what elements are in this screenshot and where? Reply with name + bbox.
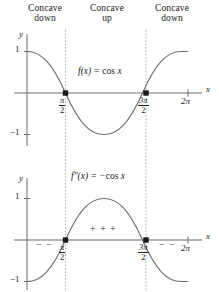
bottom-x-axis-label: x bbox=[206, 232, 210, 241]
bottom-function-var: x bbox=[118, 171, 125, 181]
top-function-body: cos bbox=[102, 66, 115, 76]
top-xtick-label-2pi: 2π bbox=[181, 97, 190, 106]
fraction-pi-over-2: π 2 bbox=[59, 243, 65, 262]
concavity-label-right: Concave down bbox=[141, 4, 203, 24]
sign-label-right: − − bbox=[159, 241, 176, 251]
concavity-label-left: Concave down bbox=[14, 4, 76, 24]
concavity-label-right-line1: Concave bbox=[155, 3, 189, 13]
fraction-pi-over-2: π 2 bbox=[59, 96, 65, 115]
concavity-figure: Concave down Concave up Concave down y x… bbox=[0, 0, 219, 292]
sign-label-left: − − bbox=[36, 241, 53, 251]
concavity-label-right-line2: down bbox=[141, 14, 203, 24]
bottom-function-arg: (x) = − bbox=[78, 171, 106, 181]
top-ytick-label-1: 1 bbox=[15, 45, 20, 54]
fraction-denominator: 2 bbox=[59, 106, 65, 115]
top-xtick-label-pi-over-2: π 2 bbox=[59, 96, 65, 117]
bottom-xtick-label-2pi: 2π bbox=[181, 244, 190, 253]
fraction-denominator: 2 bbox=[138, 253, 149, 262]
top-function-label: f(x) = cos x bbox=[78, 67, 122, 77]
concavity-label-left-line2: down bbox=[14, 14, 76, 24]
bottom-function-label: f″(x) = −cos x bbox=[71, 172, 125, 182]
fraction-3pi-over-2: 3π 2 bbox=[138, 96, 149, 115]
top-x-axis-label: x bbox=[206, 85, 210, 94]
top-y-axis-label: y bbox=[19, 30, 23, 39]
fraction-3pi-over-2: 3π 2 bbox=[138, 243, 149, 262]
bottom-xtick-label-pi-over-2: π 2 bbox=[59, 243, 65, 264]
concavity-label-middle-line2: up bbox=[76, 14, 138, 24]
top-xtick-label-3pi-over-2: 3π 2 bbox=[138, 96, 149, 117]
bottom-y-axis-label: y bbox=[19, 174, 23, 183]
top-ytick-label-neg1: −1 bbox=[10, 128, 20, 137]
bottom-ytick-label-neg1: −1 bbox=[10, 275, 20, 284]
cosine-curve bbox=[27, 52, 188, 135]
concavity-label-left-line1: Concave bbox=[28, 3, 62, 13]
top-function-arg: (x) = bbox=[81, 66, 103, 76]
sign-label-middle: + + + bbox=[90, 225, 117, 235]
bottom-ytick-label-1: 1 bbox=[15, 192, 20, 201]
top-function-var: x bbox=[115, 66, 122, 76]
bottom-xtick-label-3pi-over-2: 3π 2 bbox=[138, 243, 149, 264]
concavity-label-middle: Concave up bbox=[76, 4, 138, 24]
fraction-denominator: 2 bbox=[59, 253, 65, 262]
bottom-function-body: cos bbox=[106, 171, 119, 181]
fraction-denominator: 2 bbox=[138, 106, 149, 115]
concavity-label-middle-line1: Concave bbox=[90, 3, 124, 13]
